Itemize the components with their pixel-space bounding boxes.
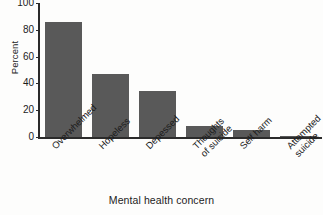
y-axis-tick-label: 100 [8, 0, 34, 8]
x-axis-tick-labels: OverwhelmedHopelessDepessedThoughtsof su… [0, 137, 323, 193]
x-axis-title: Mental health concern [0, 194, 323, 206]
y-axis-tick-label: 20 [8, 105, 34, 115]
bar-chart: Percent 020406080100 OverwhelmedHopeless… [0, 0, 323, 215]
y-axis-tick-mark [36, 83, 39, 84]
y-axis-tick-mark [36, 137, 39, 138]
y-axis-tick-mark [36, 3, 39, 4]
y-axis-tick-label: 80 [8, 25, 34, 35]
y-axis-tick-mark [36, 57, 39, 58]
y-axis-tick-mark [36, 110, 39, 111]
y-axis-tick-label: 60 [8, 52, 34, 62]
y-axis-tick-label: 40 [8, 78, 34, 88]
y-axis-tick-mark [36, 30, 39, 31]
